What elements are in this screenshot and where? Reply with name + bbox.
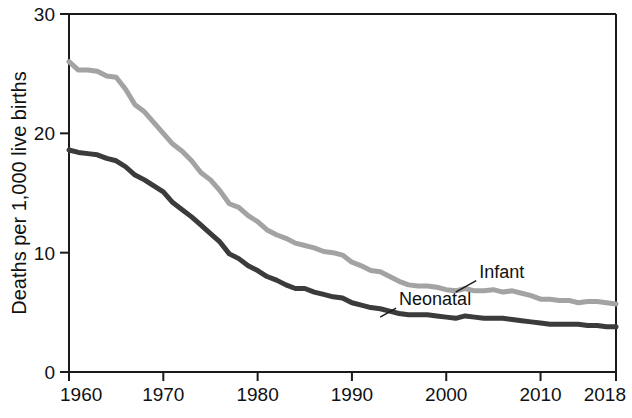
- y-axis-title: Deaths per 1,000 live births: [8, 71, 30, 314]
- x-tick-label-2018: 2018: [584, 384, 626, 405]
- x-axis-ticks: [69, 372, 616, 381]
- x-tick-label-1990: 1990: [331, 384, 373, 405]
- series-line-neonatal: [69, 150, 616, 327]
- series-label-infant: Infant: [479, 262, 524, 282]
- y-tick-label-20: 20: [34, 123, 55, 144]
- infant-neonatal-mortality-chart: 0102030 1960197019801990200020102018 Dea…: [0, 0, 632, 418]
- x-axis: 1960197019801990200020102018: [60, 372, 626, 405]
- series-label-neonatal: Neonatal: [399, 289, 471, 309]
- x-axis-tick-labels: 1960197019801990200020102018: [60, 384, 626, 405]
- y-tick-label-0: 0: [44, 362, 55, 383]
- x-tick-label-1970: 1970: [142, 384, 184, 405]
- y-axis-tick-labels: 0102030: [34, 4, 55, 383]
- series-annotations: InfantNeonatal: [380, 262, 524, 317]
- x-tick-label-1960: 1960: [60, 384, 102, 405]
- series-lines: [69, 62, 616, 327]
- x-tick-label-2000: 2000: [425, 384, 467, 405]
- plot-frame: [69, 14, 616, 372]
- y-tick-label-30: 30: [34, 4, 55, 25]
- y-axis-ticks: [60, 14, 69, 372]
- x-tick-label-2010: 2010: [519, 384, 561, 405]
- y-axis: 0102030: [34, 4, 69, 383]
- y-tick-label-10: 10: [34, 243, 55, 264]
- x-tick-label-1980: 1980: [236, 384, 278, 405]
- chart-canvas: 0102030 1960197019801990200020102018 Dea…: [0, 0, 632, 418]
